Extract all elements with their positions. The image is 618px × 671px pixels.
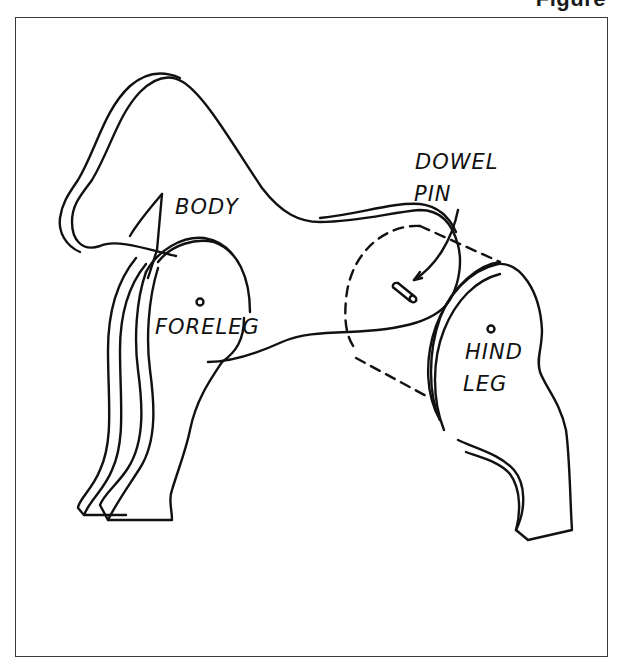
dowel-pin xyxy=(393,283,418,304)
hind-leg-pivot-hole xyxy=(488,326,495,333)
label-dowel-pin-line2: PIN xyxy=(414,182,452,206)
label-hind-leg-line2: LEG xyxy=(463,372,507,396)
body-outline xyxy=(72,77,460,362)
body-thickness xyxy=(60,73,180,252)
hind-leg-disc xyxy=(428,264,572,540)
label-hind-leg-line1: HIND xyxy=(465,340,523,364)
dowel-pin-leader xyxy=(414,210,458,280)
label-body: BODY xyxy=(175,195,239,219)
horse-diagram xyxy=(0,0,618,671)
label-dowel-pin-line1: DOWEL xyxy=(415,150,498,174)
label-foreleg: FORELEG xyxy=(155,315,260,339)
foreleg-front xyxy=(100,272,222,520)
foreleg-pivot-hole xyxy=(197,299,204,306)
